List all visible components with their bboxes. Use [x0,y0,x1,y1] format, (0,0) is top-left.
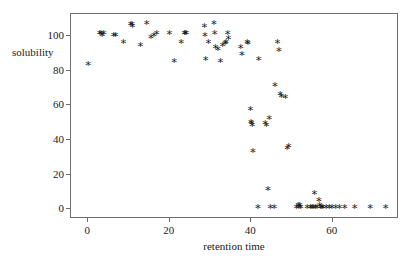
data-point: ∗ [244,38,251,47]
x-axis-tick-label: 40 [245,224,256,236]
y-axis-tick [66,208,71,209]
data-point: ∗ [248,120,255,129]
data-point: ∗ [182,28,189,37]
data-point: ∗ [351,202,358,211]
x-axis-tick [250,217,251,222]
data-point: ∗ [225,33,232,42]
data-point: ∗ [178,37,185,46]
chart-screenshot: solubility ∗∗∗∗∗∗∗∗∗∗∗∗∗∗∗∗∗∗∗∗∗∗∗∗∗∗∗∗∗… [0,0,420,261]
y-axis-tick [66,70,71,71]
data-point: ∗ [341,202,348,211]
data-point: ∗ [85,59,92,68]
x-axis-title: retention time [0,240,420,252]
y-axis-tick-label: 20 [53,168,64,180]
y-axis-tick [66,139,71,140]
data-point: ∗ [202,54,209,63]
data-point: ∗ [282,92,289,101]
data-point: ∗ [285,141,292,150]
data-point: ∗ [264,184,271,193]
x-axis-tick [332,217,333,222]
plot-area: ∗∗∗∗∗∗∗∗∗∗∗∗∗∗∗∗∗∗∗∗∗∗∗∗∗∗∗∗∗∗∗∗∗∗∗∗∗∗∗∗… [71,14,397,217]
data-point: ∗ [255,54,262,63]
data-point: ∗ [270,202,277,211]
data-point: ∗ [211,28,218,37]
data-point: ∗ [129,21,136,30]
x-axis-tick-label: 0 [85,224,91,236]
data-point: ∗ [249,146,256,155]
y-axis-tick-label: 60 [53,98,64,110]
data-point: ∗ [120,37,127,46]
x-axis-tick [87,217,88,222]
data-point: ∗ [266,113,273,122]
y-axis-tick [66,35,71,36]
plot-frame: ∗∗∗∗∗∗∗∗∗∗∗∗∗∗∗∗∗∗∗∗∗∗∗∗∗∗∗∗∗∗∗∗∗∗∗∗∗∗∗∗… [70,13,398,218]
y-axis-tick-label: 40 [53,133,64,145]
data-point: ∗ [238,49,245,58]
data-point: ∗ [143,18,150,27]
data-point: ∗ [247,104,254,113]
y-axis-tick-label: 100 [48,29,65,41]
x-axis-tick [169,217,170,222]
data-point: ∗ [254,202,261,211]
x-axis-tick-label: 60 [326,224,337,236]
data-point: ∗ [382,202,389,211]
data-point: ∗ [112,30,119,39]
data-point: ∗ [275,45,282,54]
data-point: ∗ [205,37,212,46]
y-axis-tick [66,104,71,105]
data-point: ∗ [137,40,144,49]
data-point: ∗ [171,56,178,65]
x-axis-title-text: retention time [203,240,264,252]
data-point: ∗ [367,202,374,211]
y-axis-tick-label: 80 [53,64,64,76]
y-axis-title: solubility [12,46,54,58]
x-axis-tick-label: 20 [163,224,174,236]
data-point: ∗ [100,28,107,37]
y-axis-tick [66,174,71,175]
y-axis-tick-label: 0 [59,202,65,214]
data-point: ∗ [153,28,160,37]
data-point: ∗ [217,56,224,65]
data-point: ∗ [166,28,173,37]
